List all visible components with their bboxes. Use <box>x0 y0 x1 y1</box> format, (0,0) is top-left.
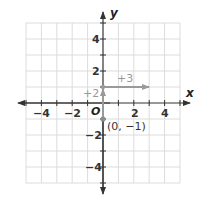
y-axis-label: y <box>110 6 119 20</box>
point-label: (0, −1) <box>107 120 146 133</box>
x-tick-label: −2 <box>64 107 81 120</box>
start-point <box>100 116 105 121</box>
y-tick-label: −2 <box>85 129 102 142</box>
y-tick-label: 4 <box>92 33 100 46</box>
coordinate-plane: x y O −4 −2 2 4 4 2 −2 −4 +2 +3 (0, −1) <box>0 0 200 202</box>
x-tick-label: 4 <box>161 107 169 120</box>
y-tick-label: −4 <box>85 161 102 174</box>
y-tick-label: 2 <box>92 65 100 78</box>
x-tick-label: −4 <box>33 107 50 120</box>
origin-label: O <box>91 105 100 118</box>
horizontal-move-label: +3 <box>117 72 133 85</box>
vertical-move-label: +2 <box>83 87 99 100</box>
turn-point <box>101 85 105 89</box>
x-axis-label: x <box>185 86 195 100</box>
x-tick-label: 2 <box>131 107 139 120</box>
